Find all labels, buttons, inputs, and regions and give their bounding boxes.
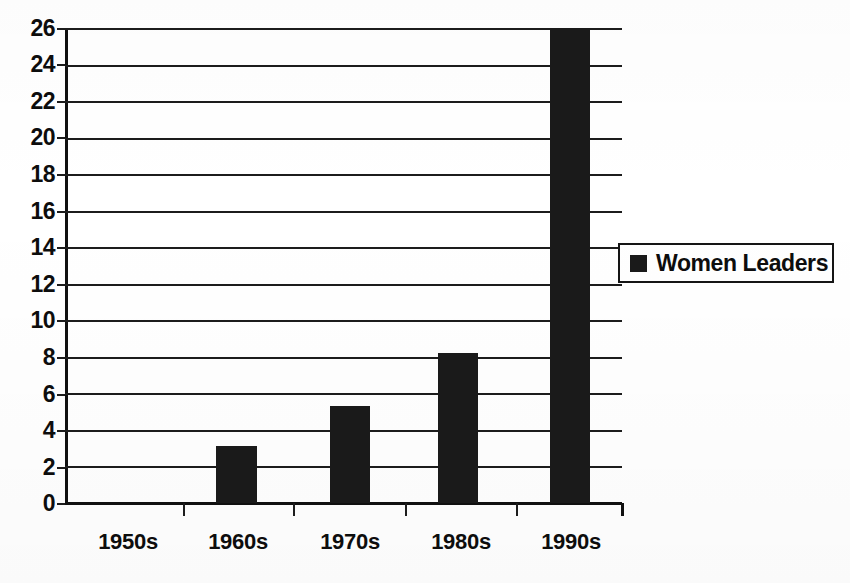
gridline [65,320,622,322]
x-axis-label-1970s: 1970s [295,529,405,555]
gridline [65,101,622,103]
plot-area [65,28,622,503]
x-axis-end-tick [621,503,624,516]
y-axis-tick-label: 26 [9,17,55,40]
gridline [65,284,622,286]
y-axis-tick-label: 2 [9,456,55,479]
bar-chart: 26 24 22 20 18 16 14 12 10 8 6 4 2 0 [0,0,850,583]
chart-legend: Women Leaders [618,243,834,283]
gridline [65,393,622,395]
y-axis-labels: 26 24 22 20 18 16 14 12 10 8 6 4 2 0 [0,0,55,583]
bar-1970s [330,406,370,503]
y-axis-tick-label: 20 [9,126,55,149]
bar-1990s [550,28,590,503]
gridline [65,357,622,359]
gridline [65,138,622,140]
y-axis-tick-label: 14 [9,236,55,259]
bar-1960s [216,446,257,503]
legend-entry-label: Women Leaders [656,250,828,277]
x-axis-label-1950s: 1950s [73,529,183,555]
y-axis-tick-label: 8 [9,346,55,369]
gridline [65,247,622,249]
x-axis-tick [405,503,407,516]
x-axis-tick [293,503,295,516]
y-axis-tick-label: 12 [9,273,55,296]
x-axis-tick [183,503,185,516]
y-axis-tick-label: 6 [9,383,55,406]
gridline [65,211,622,213]
x-axis-tick [516,503,518,516]
y-axis-tick-label: 10 [9,309,55,332]
gridline [65,28,622,30]
y-axis-tick-label: 24 [9,53,55,76]
y-axis-tick-label: 4 [9,419,55,442]
legend-swatch-icon [630,255,647,272]
y-axis-tick-label: 18 [9,163,55,186]
x-axis-label-1990s: 1990s [516,529,626,555]
x-axis-label-1960s: 1960s [183,529,293,555]
y-axis-tick-label: 0 [9,492,55,515]
bar-1980s [438,353,478,503]
y-axis-tick-label: 22 [9,90,55,113]
gridline [65,174,622,176]
gridline [65,65,622,67]
x-axis-label-1980s: 1980s [406,529,516,555]
y-axis-tick-label: 16 [9,200,55,223]
